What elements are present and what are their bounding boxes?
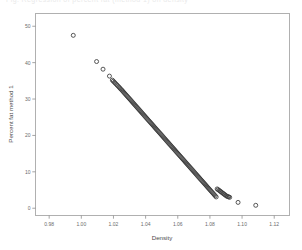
- y-tick-label: 50: [25, 23, 31, 29]
- data-point: [236, 200, 240, 204]
- x-axis-tick-labels: 0.981.001.021.041.061.081.101.12: [44, 221, 279, 227]
- x-axis-title: Density: [152, 234, 174, 241]
- x-tick-label: 1.02: [109, 221, 119, 227]
- data-point: [101, 67, 105, 71]
- x-tick-label: 1.08: [205, 221, 215, 227]
- x-tick-label: 1.00: [76, 221, 86, 227]
- data-point: [95, 60, 99, 64]
- plot-canvas: 01020304050 0.981.001.021.041.061.081.10…: [0, 0, 302, 250]
- x-tick-label: 1.10: [237, 221, 247, 227]
- y-tick-label: 20: [25, 132, 31, 138]
- x-tick-label: 1.06: [173, 221, 183, 227]
- data-point-series: [71, 33, 257, 207]
- y-tick-label: 40: [25, 60, 31, 66]
- y-tick-label: 30: [25, 96, 31, 102]
- data-point: [71, 33, 75, 37]
- y-axis-title: Percent fat method 1: [7, 85, 14, 143]
- y-tick-label: 10: [25, 169, 31, 175]
- x-tick-label: 1.04: [141, 221, 151, 227]
- plot-frame: [36, 14, 290, 216]
- x-tick-label: 1.12: [269, 221, 279, 227]
- data-point: [254, 203, 258, 207]
- data-point: [107, 74, 111, 78]
- scatter-plot-figure: Fig. Regression of percent fat (method 1…: [0, 0, 302, 250]
- y-tick-label: 0: [28, 205, 31, 211]
- y-axis-tick-labels: 01020304050: [25, 23, 31, 211]
- x-tick-label: 0.98: [44, 221, 54, 227]
